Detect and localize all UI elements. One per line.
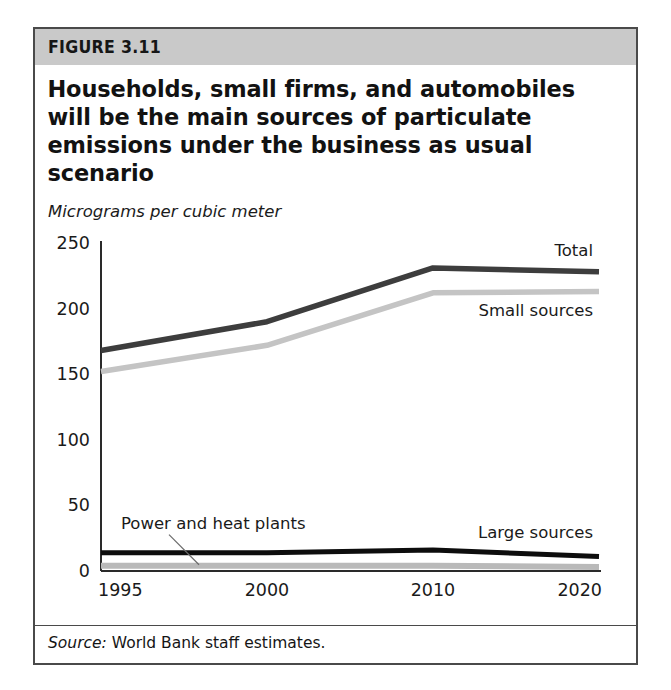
chart-plot-area: 0501001502002501995200020102020TotalSmal…	[35, 221, 636, 626]
series-line-power-and-heat-plants	[101, 566, 599, 567]
y-axis-tick-label: 200	[57, 298, 90, 318]
y-axis-tick-label: 0	[79, 561, 90, 581]
figure-number-label: FIGURE 3.11	[48, 37, 161, 57]
source-label: Source:	[48, 634, 107, 652]
x-axis-tick-label: 1995	[98, 580, 143, 600]
source-value: World Bank staff estimates.	[112, 634, 326, 652]
y-axis-tick-label: 100	[57, 430, 90, 450]
x-axis-tick-label: 2000	[245, 580, 290, 600]
figure-axis-units-label: Micrograms per cubic meter	[35, 188, 636, 221]
figure-header-band: FIGURE 3.11	[35, 29, 636, 65]
power-and-heat-leader-line	[169, 534, 199, 564]
y-axis-tick-label: 50	[68, 495, 90, 515]
series-label-small-sources: Small sources	[479, 300, 593, 319]
x-axis-tick-label: 2020	[557, 580, 602, 600]
figure-source-note: Source: World Bank staff estimates.	[35, 625, 636, 663]
series-label-power-and-heat-plants: Power and heat plants	[121, 513, 306, 532]
y-axis-tick-label: 250	[57, 233, 90, 253]
y-axis-tick-label: 150	[57, 364, 90, 384]
series-label-large-sources: Large sources	[478, 522, 593, 541]
series-line-large-sources	[101, 550, 599, 557]
series-label-total: Total	[553, 241, 593, 260]
figure-title: Households, small firms, and automobiles…	[35, 65, 609, 188]
figure-container: FIGURE 3.11 Households, small firms, and…	[33, 27, 638, 665]
x-axis-tick-label: 2010	[411, 580, 456, 600]
line-chart: 0501001502002501995200020102020TotalSmal…	[35, 221, 636, 626]
